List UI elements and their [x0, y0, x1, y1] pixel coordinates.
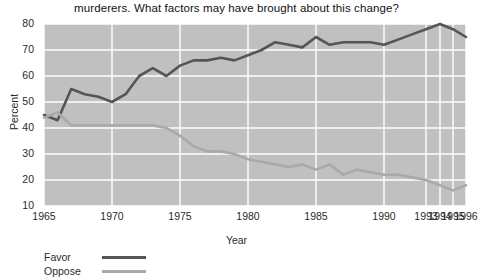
x-tick-label: 1980 — [230, 210, 266, 222]
y-tick-label: 80 — [8, 17, 34, 29]
legend-label-oppose: Oppose — [44, 265, 102, 277]
x-tick-label: 1996 — [448, 210, 482, 222]
y-tick-label: 70 — [8, 43, 34, 55]
y-axis-label: Percent — [8, 82, 20, 142]
chart-legend: Favor Oppose — [44, 250, 146, 278]
x-axis-label: Year — [0, 234, 473, 246]
x-tick-label: 1970 — [94, 210, 130, 222]
y-tick-label: 60 — [8, 69, 34, 81]
x-tick-label: 1990 — [366, 210, 402, 222]
y-tick-label: 30 — [8, 147, 34, 159]
x-tick-label: 1975 — [162, 210, 198, 222]
legend-swatch-favor — [102, 256, 146, 259]
x-tick-label: 1965 — [26, 210, 62, 222]
x-tick-label: 1985 — [298, 210, 334, 222]
legend-item-favor: Favor — [44, 250, 146, 264]
legend-item-oppose: Oppose — [44, 264, 146, 278]
legend-swatch-oppose — [102, 270, 146, 273]
legend-label-favor: Favor — [44, 251, 102, 263]
y-tick-label: 20 — [8, 173, 34, 185]
